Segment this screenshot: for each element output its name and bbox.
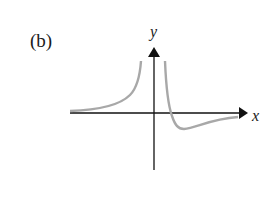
x-axis-label: x (251, 107, 259, 124)
graph-figure: (b) y x (0, 0, 274, 217)
panel-label: (b) (30, 30, 52, 52)
curve-left-branch (70, 61, 141, 111)
y-axis-label: y (148, 23, 158, 41)
curve-right-branch (165, 61, 238, 129)
x-axis-arrow-icon (239, 107, 248, 119)
y-axis-arrow-icon (148, 47, 160, 57)
